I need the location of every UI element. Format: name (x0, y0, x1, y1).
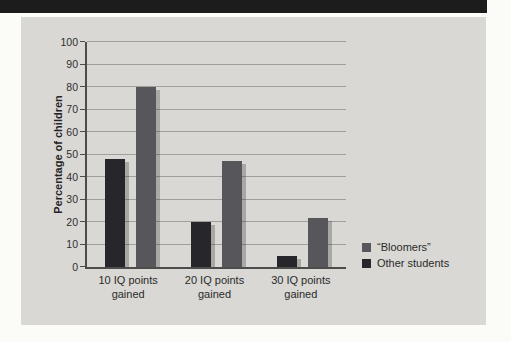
legend-item-other-students: Other students (362, 257, 449, 269)
y-tick-label-20: 20 (66, 217, 78, 228)
x-axis-label-1: 10 IQ points gained (82, 274, 174, 302)
y-tickmark-40 (80, 176, 85, 177)
y-tick-label-10: 10 (66, 239, 78, 250)
y-tickmark-100 (80, 41, 85, 42)
gridline-60 (87, 131, 346, 132)
legend-label-other-students: Other students (377, 257, 449, 269)
bar-bloomers-group-2 (222, 161, 242, 267)
y-tick-label-40: 40 (66, 172, 78, 183)
gridline-80 (87, 86, 346, 87)
legend-label-bloomers: “Bloomers” (377, 241, 431, 253)
top-rule-bar (0, 0, 487, 13)
y-tick-label-70: 70 (66, 104, 78, 115)
plot-area: 0102030405060708090100 (85, 42, 346, 269)
y-tick-label-100: 100 (60, 37, 78, 48)
y-tickmark-60 (80, 131, 85, 132)
bar-other-students-group-1 (105, 159, 125, 267)
x-axis-label-2: 20 IQ points gained (169, 274, 261, 302)
gridline-70 (87, 109, 346, 110)
y-tickmark-20 (80, 221, 85, 222)
gridline-90 (87, 64, 346, 65)
bar-other-students-group-3 (277, 256, 297, 267)
y-tickmark-50 (80, 154, 85, 155)
y-tickmark-80 (80, 86, 85, 87)
gridline-100 (87, 41, 346, 42)
y-tickmark-10 (80, 244, 85, 245)
y-axis-title: Percentage of children (52, 73, 65, 237)
bar-other-students-group-2 (191, 222, 211, 267)
legend-swatch-other-students (362, 259, 371, 268)
y-tickmark-30 (80, 199, 85, 200)
y-tick-label-90: 90 (66, 59, 78, 70)
bar-bloomers-group-3 (308, 218, 328, 268)
y-tickmark-90 (80, 64, 85, 65)
page: Percentage of children 01020304050607080… (0, 0, 511, 342)
legend: “Bloomers” Other students (362, 241, 449, 273)
chart-panel: Percentage of children 01020304050607080… (21, 17, 486, 325)
bar-bloomers-group-1 (136, 87, 156, 267)
y-tickmark-70 (80, 109, 85, 110)
y-tick-label-30: 30 (66, 194, 78, 205)
y-tick-label-0: 0 (72, 262, 78, 273)
legend-swatch-bloomers (362, 243, 371, 252)
y-tick-label-60: 60 (66, 127, 78, 138)
x-axis-label-3: 30 IQ points gained (255, 274, 347, 302)
y-tickmark-0 (80, 266, 85, 267)
y-tick-label-50: 50 (66, 149, 78, 160)
gridline-50 (87, 154, 346, 155)
y-tick-label-80: 80 (66, 82, 78, 93)
legend-item-bloomers: “Bloomers” (362, 241, 449, 253)
